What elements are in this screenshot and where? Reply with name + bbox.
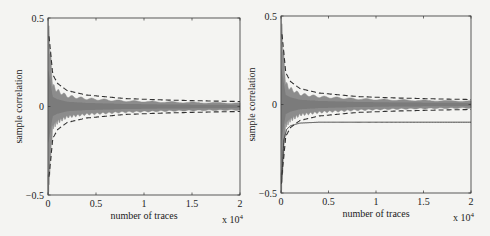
x-tick-label: 0 (46, 198, 51, 209)
y-tick-label: −0.5 (259, 188, 277, 199)
x-tick-label: 1 (374, 196, 379, 207)
y-tick-label: 0 (272, 99, 277, 110)
chart-left: 00.511.52−0.500.5 number of traces sampl… (0, 0, 245, 236)
correct-key-line (282, 122, 472, 184)
y-axis-label: sample correlation (246, 67, 257, 141)
y-tick-label: −0.5 (26, 190, 44, 201)
x-axis-label: number of traces (342, 208, 409, 219)
chart-right-svg: 00.511.52−0.500.5 number of traces sampl… (245, 0, 490, 236)
y-tick-label: 0 (39, 101, 44, 112)
x-tick-label: 2 (238, 198, 243, 209)
x-axis-label: number of traces (110, 210, 177, 221)
x-tick-label: 0.5 (322, 196, 335, 207)
x-multiplier: x 104 (222, 213, 244, 225)
noise-envelope (48, 19, 240, 194)
x-multiplier: x 104 (453, 211, 475, 223)
chart-right: 00.511.52−0.500.5 number of traces sampl… (245, 0, 490, 236)
x-tick-label: 0.5 (90, 198, 103, 209)
x-tick-label: 0 (279, 196, 284, 207)
y-tick-label: 0.5 (265, 11, 278, 22)
chart-left-svg: 00.511.52−0.500.5 number of traces sampl… (0, 0, 245, 236)
x-tick-label: 1.5 (417, 196, 430, 207)
y-axis-label: sample correlation (13, 69, 24, 143)
x-tick-label: 1 (142, 198, 147, 209)
noise-envelope (281, 17, 471, 192)
x-tick-label: 1.5 (186, 198, 199, 209)
y-tick-label: 0.5 (32, 13, 45, 24)
x-tick-label: 2 (469, 196, 474, 207)
